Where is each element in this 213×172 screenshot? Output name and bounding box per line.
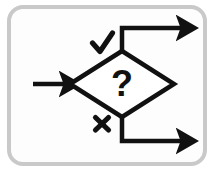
diagram-canvas: ? (0, 0, 213, 172)
flowchart-svg: ? (0, 0, 213, 172)
decision-label: ? (111, 63, 133, 104)
